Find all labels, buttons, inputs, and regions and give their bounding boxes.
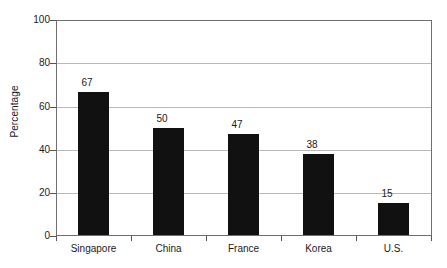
y-tick-label: 40 [26,145,50,155]
y-tick-label: 60 [26,102,50,112]
gridline [57,63,431,64]
x-tick-mark [281,236,282,241]
y-tick-label: 100 [26,15,50,25]
bar [378,203,409,235]
x-tick-mark [56,236,57,241]
x-category-label: Korea [281,243,356,254]
bar-value-label: 47 [212,120,262,130]
bar-chart: Percentage 100 80 60 40 20 0 67 50 47 38… [0,0,447,268]
y-tick-label: 20 [26,188,50,198]
x-category-label: China [131,243,206,254]
bar [78,92,109,235]
bar-value-label: 38 [287,140,337,150]
y-axis-title: Percentage [9,67,20,157]
x-tick-mark [431,236,432,241]
x-category-label: France [206,243,281,254]
y-tick-label: 0 [26,231,50,241]
x-tick-mark [356,236,357,241]
bar [153,128,184,235]
bar [303,154,334,235]
gridline [57,107,431,108]
x-category-label: Singapore [56,243,131,254]
x-tick-mark [131,236,132,241]
x-category-label: U.S. [356,243,431,254]
bar-value-label: 50 [137,114,187,124]
y-axis-tick-labels: 100 80 60 40 20 0 [22,0,50,268]
y-tick-label: 80 [26,58,50,68]
bar [228,134,259,235]
bar-value-label: 67 [62,78,112,88]
x-tick-mark [206,236,207,241]
bar-value-label: 15 [362,189,412,199]
